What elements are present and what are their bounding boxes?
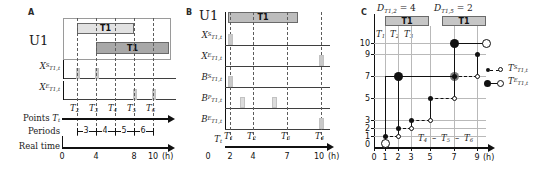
panel-a-bar-light: T1 [77,23,134,34]
panel-b-xtick-4: 10 [312,152,326,161]
panel-c-xtick-mark-7 [454,147,455,151]
panel-a-row-tick-xs [63,60,64,79]
panel-a-point-label-4: T6 [146,103,155,113]
panel-c-xtick-mark-9 [477,147,478,151]
panel-c: C DT1,2 = 4 DT1,5 = 2 T1 T1 T1 T2 T3 [358,0,537,178]
panel-a-point-label-0: T2 [70,103,79,113]
panel-c-top-point-label-0: T1 [376,29,385,39]
panel-b-spike-be-1 [319,118,324,129]
panel-b-row-axis-bp [225,108,330,109]
panel-c-xtick-mark-2 [398,147,399,151]
panel-b-time-axis-label: Tt [198,134,222,144]
panel-a-period-cap-1 [96,128,97,135]
panel-b-unit-label: U1 [199,8,218,23]
panel-c-ytick-label-9: 9 [354,50,370,59]
panel-b-y-axis [225,12,226,130]
panel-c-xtick-mark-5 [430,147,431,151]
panel-b-x-axis [225,146,329,148]
panel-a-period-number-1: 4 [102,126,108,135]
panel-c-ytick-label-0: 0 [354,140,370,149]
panel-b-xtick-1: 2 [224,152,236,161]
panel-c-ytick-mark-5 [371,98,374,99]
panel-a-xtick-1: 4 [90,152,102,161]
panel-c-inner-point-label-0: T4 [418,133,427,143]
panel-b-guide-t2 [253,12,254,140]
panel-c-axis-unit: (h) [483,153,501,162]
panel-c-inner-point-label-1: T5 [441,133,450,143]
panel-a-points-axis-arrow [168,115,175,123]
panel-c-x-axis [374,147,490,149]
panel-a-periods-row-label: Periods [2,126,60,136]
panel-a-period-cap-4 [153,128,154,135]
panel-a-points-axis [62,118,170,120]
panel-a-row-axis-xe [63,99,176,100]
legend-label-te: TET1,t [508,76,528,86]
panel-a-points-row-label: Points Tt [2,113,60,123]
panel-b-row-label-xe: XET1,t [180,51,222,61]
panel-b: B U1 T1 XST1,t XET1,t BST1,t BPT1,t BET1… [182,0,358,178]
panel-a-letter: A [28,8,34,17]
panel-c-bar-0: T1 [385,16,429,26]
panel-a-realtime-origin-tick [62,136,63,148]
panel-b-point-label-1: T2 [247,131,256,141]
panel-b-row-label-bp: BPT1,t [180,93,222,103]
panel-c-inner-point-label-2: T6 [464,133,473,143]
panel-c-ytick-mark-10 [371,43,374,44]
panel-c-xtick-label-7: 7 [448,153,460,162]
panel-c-xtick-label-1: 1 [379,153,391,162]
panel-b-point-label-3: T4 [315,131,324,141]
panel-c-xtick-mark-3 [411,147,412,151]
panel-a-bar-dark: T1 [96,42,169,54]
panel-c-ts-open-0 [396,134,401,139]
panel-c-xtick-mark-1 [385,147,386,151]
panel-b-point-label-0: T1 [224,131,233,141]
panel-c-te-point-1 [450,39,459,48]
panel-a-row-axis-xs [63,78,176,79]
panel-c-ts-point-3 [428,96,433,101]
panel-c-xtick-label-9: 9 [471,153,483,162]
panel-b-row-axis-bs [225,87,330,88]
panel-c-ytick-label-5: 5 [354,94,370,103]
panel-c-inner-dash-0: – [432,133,436,143]
panel-c-te-point-2 [450,72,459,81]
panel-c-duration-annotation-1: DT1,5 = 2 [434,3,473,14]
panel-c-letter: C [361,8,367,17]
panel-a-xtick-0: 0 [56,152,68,161]
panel-a-row-label-xe: XET1,t [10,82,60,92]
panel-a-realtime-axis [62,147,170,149]
panel-b-point-label-2: T3 [281,131,290,141]
panel-b-row-axis-xs [225,45,330,46]
panel-b-x-axis-arrow [327,143,334,151]
legend-label-ts: TST1,t [508,63,528,73]
panel-a-xtick-3: 10 [147,152,159,161]
panel-a-period-cap-2 [115,128,116,135]
panel-a-point-label-2: T4 [108,103,117,113]
panel-b-spike-bs-1 [228,76,233,87]
panel-c-ts-open-2 [428,118,433,123]
panel-c-xtick-label-5: 5 [424,153,436,162]
panel-a: A U1 T1 T1 XST1,t XET1,t T2 T3 [0,0,182,178]
panel-a-realtime-row-label: Real time [2,141,60,151]
panel-c-ytick-label-7: 7 [354,72,370,81]
panel-c-xtick-label-2: 2 [392,153,404,162]
panel-c-ts-open-1 [409,126,414,131]
panel-a-row-tick-xe [63,81,64,100]
panel-b-row-label-bs: BST1,t [180,72,222,82]
panel-c-ytick-mark-3 [371,120,374,121]
panel-c-xtick-mark-0 [374,147,375,151]
panel-a-point-label-3: T5 [127,103,136,113]
panel-c-ytick-mark-7 [371,76,374,77]
panel-a-unit-label: U1 [29,33,48,48]
panel-b-spike-bp-2 [272,97,277,108]
panel-b-row-label-be: BET1,t [180,114,222,124]
panel-c-ytick-mark-2 [371,128,374,129]
panel-c-ytick-mark-9 [371,54,374,55]
panel-c-ytick-label-10: 10 [354,39,370,48]
panel-c-gridline-x5 [430,26,431,147]
panel-c-ts-point-5 [475,52,480,57]
panel-c-ts-open-3 [452,96,457,101]
panel-c-ts-riser-2 [430,98,431,120]
panel-b-row-label-xs: XST1,t [180,30,222,40]
panel-a-realtime-axis-arrow [168,144,175,152]
panel-b-xtick-2: 4 [247,152,259,161]
